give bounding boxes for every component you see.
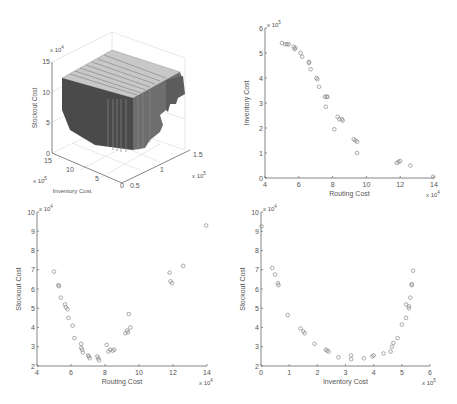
svg-text:5: 5 <box>259 50 263 57</box>
routing-vs-stockout-chart: 4681012142345678910x 104x 104Routing Cos… <box>0 200 230 390</box>
x-tick-labels: 468101214 <box>35 369 211 376</box>
data-point <box>52 270 56 274</box>
scatter-points <box>260 225 415 361</box>
svg-text:10: 10 <box>42 89 50 96</box>
data-point <box>168 271 172 275</box>
z-tick-labels: 15 10 5 0 <box>42 58 50 157</box>
svg-text:12: 12 <box>396 181 404 188</box>
data-point <box>409 164 413 168</box>
y-exponent: x 104 <box>39 204 53 212</box>
data-point <box>73 336 77 340</box>
data-point <box>57 284 61 288</box>
svg-text:0.5: 0.5 <box>130 182 140 189</box>
svg-text:9: 9 <box>255 228 259 235</box>
axes <box>265 28 434 178</box>
y-exponent: x 105 <box>192 171 206 179</box>
y-axis-label: Stockout Cost <box>239 267 246 311</box>
x-axis-label: Inventory Cost <box>53 188 92 194</box>
svg-text:15: 15 <box>44 157 52 164</box>
svg-text:3: 3 <box>259 100 263 107</box>
y-axis-label: Stockout Cost <box>15 267 22 311</box>
routing-vs-inventory-chart: 4681012140123456x 105x 104Routing CostIn… <box>230 0 457 200</box>
data-point <box>362 357 366 361</box>
data-point <box>79 342 83 346</box>
data-point <box>260 225 264 229</box>
svg-text:15: 15 <box>42 58 50 65</box>
data-point <box>382 352 386 356</box>
x-axis-label: Routing Cost <box>102 378 143 386</box>
x-exponent: x 104 <box>426 190 440 198</box>
surface-3d-chart: 15 10 5 0 x 104 Stockout Cost 15 10 5 0 … <box>0 0 230 200</box>
data-point <box>392 341 396 345</box>
svg-text:9: 9 <box>31 228 35 235</box>
x-exponent: x 105 <box>422 378 436 386</box>
data-point <box>317 85 321 89</box>
data-point <box>300 55 304 59</box>
routing-vs-stockout-panel: 4681012142345678910x 104x 104Routing Cos… <box>0 200 230 390</box>
surface-3d-panel: 15 10 5 0 x 104 Stockout Cost 15 10 5 0 … <box>0 0 230 200</box>
svg-text:10: 10 <box>27 209 35 216</box>
data-point <box>204 224 208 228</box>
svg-text:1: 1 <box>259 150 263 157</box>
svg-text:0: 0 <box>259 369 263 376</box>
figure-caption <box>0 390 457 404</box>
data-point <box>273 273 277 277</box>
data-point <box>408 296 412 300</box>
svg-text:10: 10 <box>251 209 259 216</box>
svg-text:8: 8 <box>255 247 259 254</box>
svg-text:0: 0 <box>46 150 50 157</box>
svg-text:7: 7 <box>255 266 259 273</box>
svg-text:8: 8 <box>31 247 35 254</box>
y-tick-labels: 0.5 1 1.5 <box>130 151 203 189</box>
svg-text:6: 6 <box>31 286 35 293</box>
svg-text:10: 10 <box>363 181 371 188</box>
svg-text:1.5: 1.5 <box>193 151 203 158</box>
x-tick-labels: 15 10 5 0 <box>44 157 124 189</box>
data-point <box>396 336 400 340</box>
data-point <box>127 312 131 316</box>
data-point <box>71 324 75 328</box>
z-axis-label: Stockout Cost <box>31 88 38 129</box>
svg-text:0: 0 <box>259 175 263 182</box>
svg-text:2: 2 <box>259 125 263 132</box>
inventory-vs-stockout-chart: 01234562345678910x 104x 105Inventory Cos… <box>230 200 457 390</box>
x-axis-label: Routing Cost <box>329 190 370 198</box>
svg-text:3: 3 <box>344 369 348 376</box>
svg-text:0: 0 <box>120 182 124 189</box>
svg-text:6: 6 <box>69 369 73 376</box>
data-point <box>59 296 63 300</box>
svg-text:6: 6 <box>255 286 259 293</box>
y-tick-labels: 2345678910 <box>251 209 259 370</box>
data-point <box>404 316 408 320</box>
svg-text:2: 2 <box>31 363 35 370</box>
data-point <box>332 127 336 131</box>
x-tick-labels: 468101214 <box>263 181 438 188</box>
svg-text:4: 4 <box>35 369 39 376</box>
svg-text:5: 5 <box>95 175 99 182</box>
svg-text:14: 14 <box>430 181 438 188</box>
data-point <box>270 266 274 270</box>
x-exponent: x 105 <box>33 176 47 184</box>
y-exponent: x 104 <box>263 204 277 212</box>
svg-text:7: 7 <box>31 266 35 273</box>
data-point <box>67 316 71 320</box>
data-point <box>286 313 290 317</box>
data-point <box>105 343 109 347</box>
scatter-points <box>280 41 435 178</box>
svg-text:8: 8 <box>331 181 335 188</box>
svg-text:10: 10 <box>135 369 143 376</box>
x-tick-labels: 0123456 <box>259 369 432 376</box>
y-exponent: x 105 <box>267 20 281 28</box>
y-axis-label: Inventory Cost <box>243 80 251 125</box>
data-point <box>299 327 303 331</box>
surface-blocks <box>62 50 185 150</box>
x-axis-label: Inventory Cost <box>323 378 368 386</box>
svg-text:5: 5 <box>46 119 50 126</box>
svg-text:3: 3 <box>31 343 35 350</box>
svg-text:5: 5 <box>255 305 259 312</box>
routing-vs-inventory-panel: 4681012140123456x 105x 104Routing CostIn… <box>230 0 457 200</box>
svg-text:12: 12 <box>169 369 177 376</box>
x-exponent: x 104 <box>199 378 213 386</box>
y-tick-labels: 0123456 <box>259 25 263 182</box>
data-point <box>390 345 394 349</box>
